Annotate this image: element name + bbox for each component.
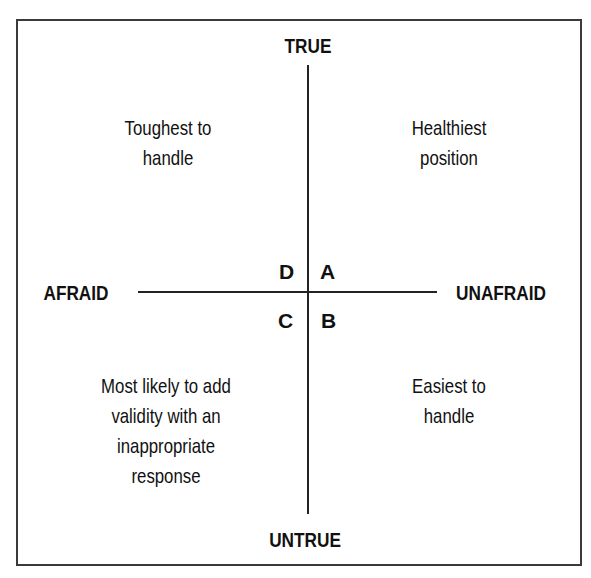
quadrant-a-line: position: [385, 143, 513, 173]
horizontal-axis-line: [138, 291, 437, 293]
quadrant-c-line: Most likely to add: [78, 371, 254, 401]
quadrant-letter-b: B: [321, 310, 336, 331]
quadrant-letter-a: A: [320, 261, 335, 282]
quadrant-c-description: Most likely to add validity with an inap…: [78, 371, 254, 491]
quadrant-d-description: Toughest to handle: [104, 113, 232, 173]
quadrant-d-line: handle: [104, 143, 232, 173]
vertical-axis-line: [307, 65, 309, 514]
quadrant-letter-d: D: [279, 261, 294, 282]
axis-label-right: UNAFRAID: [452, 282, 550, 303]
quadrant-b-line: Easiest to: [385, 371, 513, 401]
quadrant-c-line: validity with an: [78, 401, 254, 431]
quadrant-c-line: response: [78, 461, 254, 491]
axis-label-left: AFRAID: [38, 282, 113, 303]
quadrant-letter-c: C: [278, 310, 293, 331]
quadrant-d-line: Toughest to: [104, 113, 232, 143]
axis-label-top: TRUE: [282, 35, 334, 56]
quadrant-b-line: handle: [385, 401, 513, 431]
quadrant-a-line: Healthiest: [385, 113, 513, 143]
axis-label-bottom: UNTRUE: [265, 529, 345, 550]
quadrant-a-description: Healthiest position: [385, 113, 513, 173]
quadrant-b-description: Easiest to handle: [385, 371, 513, 431]
quadrant-c-line: inappropriate: [78, 431, 254, 461]
